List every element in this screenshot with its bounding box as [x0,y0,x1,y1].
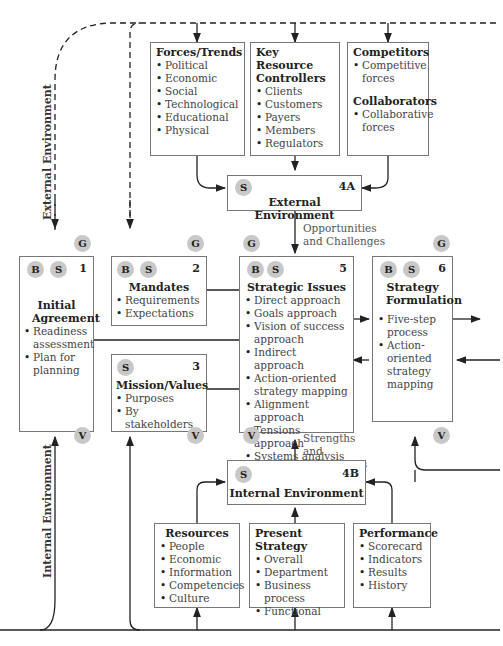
resources-title: Resources [160,527,234,540]
step-number: 1 [79,262,87,275]
s-badge: S [140,261,157,278]
s-badge: S [117,359,134,376]
list-item: Action-oriented strategy mapping [245,372,348,398]
list-item: Clients [256,85,334,98]
box-title: Internal Environment [228,487,365,500]
step-number: 5 [339,262,347,275]
step-number: 6 [438,262,446,275]
list-item: Regulators [256,137,334,150]
list-item: Goals approach [245,307,348,320]
list-item: Political [156,59,239,72]
v-marker: V [433,427,450,444]
box-title: Mandates [116,281,202,294]
v-marker: V [74,427,91,444]
list-item: Economic [160,553,234,566]
list-item: Requirements [116,294,202,307]
internal-environment-label: Internal Environment [41,444,54,578]
list-item: Department [255,566,339,579]
list-item: Competencies [160,579,234,592]
g-marker: G [74,235,91,252]
list-item: Payers [256,111,334,124]
list-item: History [359,579,425,592]
list-item: Expectations [116,307,202,320]
list-item: Action-oriented strategy mapping [378,339,447,391]
list-item: Information [160,566,234,579]
s-badge: S [235,179,252,196]
list-item: Culture [160,592,234,605]
list-item: Technological [156,98,239,111]
list-item: By stakeholders [116,405,202,431]
list-item: Indirect approach [245,346,348,372]
list-item: Plan for planning [24,351,89,377]
list-item: People [160,540,234,553]
strategy-formulation-box: B S 6 Strategy Formulation Five-step pro… [372,256,453,422]
list-item: Business process [255,579,339,605]
mission-values-box: S 3 Mission/Values Purposes By stakehold… [111,354,207,432]
box-title: Strategic Issues [245,281,348,294]
b-badge: B [117,261,134,278]
b-badge: B [380,261,397,278]
present-strategy-title: Present Strategy [255,527,339,553]
step-number: 2 [192,262,200,275]
g-marker: G [243,235,260,252]
list-item: Educational [156,111,239,124]
internal-environment-box-4b: S 4B Internal Environment [227,460,366,505]
box-title: External Environment [228,196,361,222]
external-environment-label: External Environment [41,84,54,220]
list-item: Physical [156,124,239,137]
key-resource-controllers-title: Key Resource Controllers [256,46,334,85]
performance-box: Performance Scorecard Indicators Results… [353,523,431,608]
strategic-issues-box: B S 5 Strategic Issues Direct approach G… [239,256,354,433]
step-number: 4A [339,180,355,193]
list-item: Alignment approach [245,398,348,424]
list-item: Direct approach [245,294,348,307]
list-item: Five-step process [378,313,447,339]
step-number: 4B [342,467,359,480]
s-badge: S [50,261,67,278]
list-item: Scorecard [359,540,425,553]
key-resource-controllers-box: Key Resource Controllers Clients Custome… [250,42,340,156]
s-badge: S [267,261,284,278]
collaborators-title: Collaborators [353,95,423,108]
list-item: Purposes [116,392,202,405]
list-item: Results [359,566,425,579]
list-item: Social [156,85,239,98]
list-item: Functional [255,605,339,618]
b-badge: B [27,261,44,278]
opportunities-challenges-label: Opportunities and Challenges [303,222,393,248]
initial-agreement-box: B S 1 Initial Agreement Readiness assess… [19,256,94,432]
external-environment-box-4a: S 4A External Environment [227,175,362,211]
list-item: Vision of success approach [245,320,348,346]
present-strategy-box: Present Strategy Overall Department Busi… [249,523,345,608]
s-badge: S [235,466,252,483]
g-marker: G [187,235,204,252]
competitors-title: Competitors [353,46,423,59]
competitors-box: Competitors Competitive forces Collabora… [347,42,429,156]
v-marker: V [187,427,204,444]
box-title: Initial Agreement [24,299,89,325]
list-item: Members [256,124,334,137]
s-badge: S [403,261,420,278]
mandates-box: B S 2 Mandates Requirements Expectations [111,256,207,326]
box-title: Strategy Formulation [378,281,447,307]
forces-trends-box: Forces/Trends Political Economic Social … [150,42,245,156]
list-item: Competitive forces [353,59,423,85]
performance-title: Performance [359,527,425,540]
v-marker: V [243,427,260,444]
resources-box: Resources People Economic Information Co… [154,523,240,608]
g-marker: G [433,235,450,252]
b-badge: B [247,261,264,278]
list-item: Readiness assessment [24,325,89,351]
box-title: Mission/Values [116,379,202,392]
forces-trends-title: Forces/Trends [156,46,239,59]
list-item: Indicators [359,553,425,566]
list-item: Customers [256,98,334,111]
list-item: Overall [255,553,339,566]
list-item: Economic [156,72,239,85]
step-number: 3 [192,360,200,373]
list-item: Collaborative forces [353,108,423,134]
